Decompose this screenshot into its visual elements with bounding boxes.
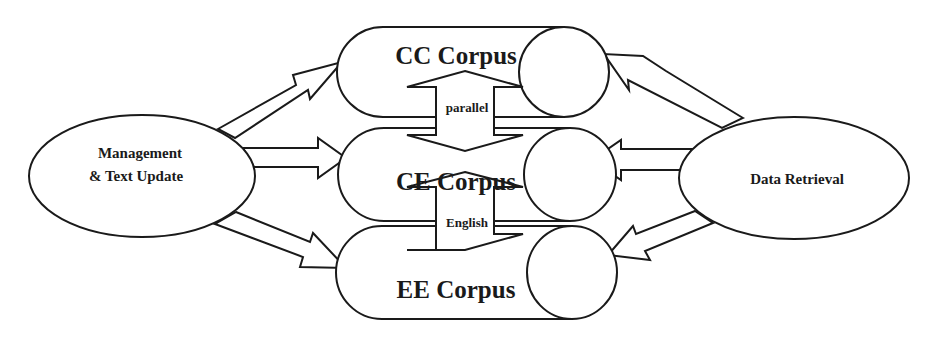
arrow-management-to-ee-icon	[215, 212, 346, 268]
node-data-retrieval[interactable]: Data Retrieval	[679, 117, 909, 239]
link-english-label: English	[446, 215, 489, 230]
corpus-system-diagram: CC Corpus CE Corpus EE Corpus parallel E…	[0, 0, 939, 345]
arrow-retrieval-to-cc-icon	[604, 54, 743, 128]
management-label-line2: & Text Update	[89, 168, 184, 184]
corpus-cc-label: CC Corpus	[395, 42, 517, 69]
corpus-ee-label: EE Corpus	[397, 276, 516, 303]
corpus-ce-label: CE Corpus	[396, 168, 516, 195]
corpus-ee-end-icon	[527, 226, 617, 319]
link-parallel-label: parallel	[446, 100, 489, 115]
arrow-retrieval-to-ee-icon	[608, 211, 713, 260]
data-retrieval-label: Data Retrieval	[750, 171, 844, 187]
management-label-line1: Management	[98, 145, 182, 161]
corpus-ce-end-icon	[524, 128, 616, 221]
corpus-cc-end-icon	[519, 27, 609, 117]
arrow-management-to-cc-icon	[218, 62, 342, 138]
node-management-text-update[interactable]: Management & Text Update	[29, 115, 255, 237]
arrow-management-to-ce-icon	[243, 138, 346, 178]
